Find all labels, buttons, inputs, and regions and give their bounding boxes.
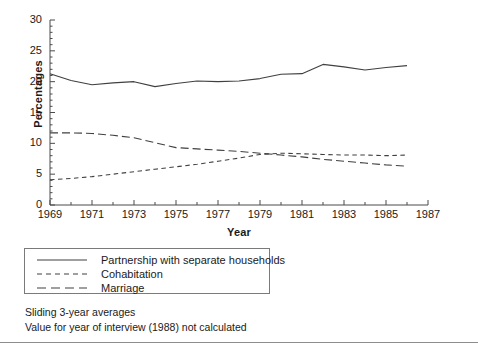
legend-line-long-dash-icon	[35, 282, 89, 294]
x-tick-label: 1987	[406, 209, 450, 220]
y-tick-label: 15	[12, 107, 42, 118]
series-line-2	[50, 153, 407, 180]
y-tick-label: 30	[12, 14, 42, 25]
x-tick-label: 1985	[364, 209, 408, 220]
legend-line-solid-icon	[35, 254, 89, 266]
bottom-divider	[0, 342, 478, 343]
x-tick-label: 1969	[28, 209, 72, 220]
x-tick-label: 1973	[112, 209, 156, 220]
y-tick-label: 5	[12, 168, 42, 179]
figure: Percentages Year 051015202530 1969197119…	[0, 0, 478, 353]
legend: Partnership with separate households Coh…	[24, 248, 270, 294]
y-tick-label: 10	[12, 137, 42, 148]
legend-label-marriage: Marriage	[101, 282, 144, 294]
legend-label-cohabitation: Cohabitation	[101, 268, 163, 280]
series-line-1	[50, 64, 407, 86]
x-tick-label: 1983	[322, 209, 366, 220]
footnote-line-2: Value for year of interview (1988) not c…	[25, 320, 247, 335]
footnotes: Sliding 3-year averages Value for year o…	[25, 305, 247, 335]
legend-item-marriage: Marriage	[35, 281, 144, 295]
line-chart-svg	[0, 0, 478, 240]
x-tick-label: 1975	[154, 209, 198, 220]
x-tick-label: 1977	[196, 209, 240, 220]
y-tick-label: 25	[12, 45, 42, 56]
footnote-line-1: Sliding 3-year averages	[25, 305, 247, 320]
legend-item-partnership: Partnership with separate households	[35, 253, 285, 267]
legend-label-partnership: Partnership with separate households	[101, 254, 285, 266]
x-tick-label: 1979	[238, 209, 282, 220]
x-tick-label: 1981	[280, 209, 324, 220]
x-tick-label: 1971	[70, 209, 114, 220]
x-axis-title: Year	[50, 226, 428, 238]
legend-item-cohabitation: Cohabitation	[35, 267, 163, 281]
legend-line-short-dash-icon	[35, 268, 89, 280]
y-tick-label: 20	[12, 76, 42, 87]
plot-area: Percentages Year 051015202530 1969197119…	[0, 0, 478, 240]
series-line-3	[50, 133, 407, 166]
